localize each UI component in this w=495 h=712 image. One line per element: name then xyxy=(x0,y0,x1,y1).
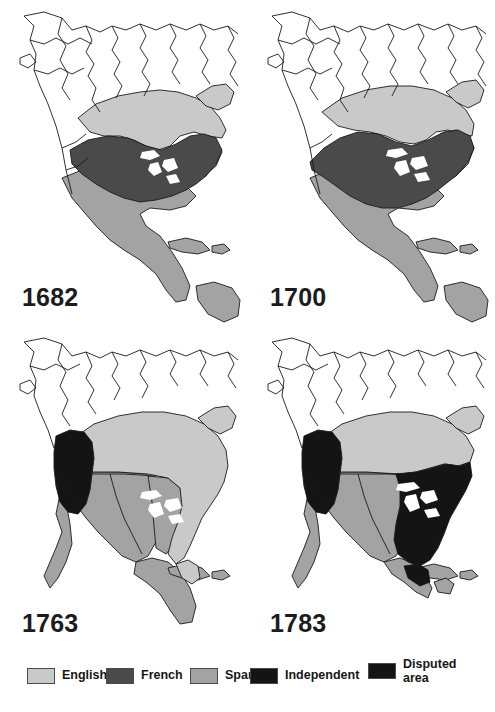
map-graphic-1763 xyxy=(0,326,247,650)
map-graphic-1700 xyxy=(248,0,495,324)
map-panel-grid: 1682 xyxy=(0,0,495,648)
year-label-1783: 1783 xyxy=(270,611,326,636)
legend-label-french: French xyxy=(141,669,183,682)
historical-map-figure: 1682 xyxy=(0,0,495,712)
map-legend: English French Spanish Independent Dispu… xyxy=(0,655,495,697)
map-panel-1763[interactable]: 1763 xyxy=(0,326,247,650)
year-label-1700: 1700 xyxy=(270,285,326,310)
legend-swatch-disputed xyxy=(368,663,396,679)
year-label-1763: 1763 xyxy=(22,611,78,636)
legend-swatch-spanish xyxy=(190,668,218,684)
legend-label-independent: Independent xyxy=(285,669,359,682)
map-graphic-1783 xyxy=(248,326,495,650)
map-graphic-1682 xyxy=(0,0,247,324)
map-panel-1682[interactable]: 1682 xyxy=(0,0,247,324)
legend-swatch-english xyxy=(27,668,55,684)
legend-label-disputed: Disputed area xyxy=(403,657,456,685)
legend-item-disputed[interactable]: Disputed area xyxy=(368,659,456,683)
legend-label-english: English xyxy=(62,669,107,682)
legend-swatch-french xyxy=(106,668,134,684)
map-panel-1783[interactable]: 1783 xyxy=(248,326,495,650)
map-panel-1700[interactable]: 1700 xyxy=(248,0,495,324)
legend-swatch-independent xyxy=(250,668,278,684)
legend-item-english[interactable]: English xyxy=(27,664,107,688)
year-label-1682: 1682 xyxy=(22,285,78,310)
legend-item-french[interactable]: French xyxy=(106,664,183,688)
legend-item-independent[interactable]: Independent xyxy=(250,664,359,688)
